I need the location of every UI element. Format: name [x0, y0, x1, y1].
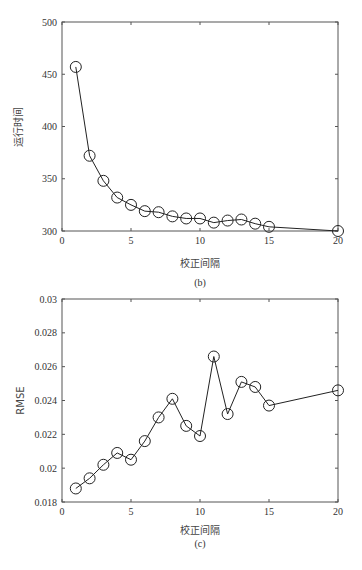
chart-runtime: 05101520300350400450500校正间隔运行时间(b) [12, 17, 344, 290]
y-tick-label: 400 [42, 121, 57, 132]
y-tick-label: 0.028 [35, 327, 58, 338]
y-tick-label: 0.024 [35, 395, 58, 406]
y-tick-label: 0.03 [40, 294, 58, 305]
chart-rmse: 051015200.0180.020.0220.0240.0260.0280.0… [15, 294, 344, 551]
x-tick-label: 5 [129, 235, 134, 246]
y-tick-label: 0.018 [35, 497, 58, 508]
plot-frame [62, 22, 338, 231]
x-tick-label: 10 [195, 235, 205, 246]
x-tick-label: 20 [333, 506, 343, 517]
x-tick-label: 15 [264, 235, 274, 246]
figure: 05101520300350400450500校正间隔运行时间(b)051015… [0, 0, 362, 570]
figure-caption: (c) [194, 538, 205, 550]
x-axis-label: 校正间隔 [180, 257, 220, 269]
y-tick-label: 450 [42, 69, 57, 80]
y-tick-label: 0.02 [40, 463, 58, 474]
x-tick-label: 0 [60, 235, 65, 246]
series-line [76, 67, 338, 231]
y-axis-label: 运行时间 [12, 107, 24, 147]
x-tick-label: 15 [264, 506, 274, 517]
x-axis-label: 校正间隔 [180, 524, 220, 536]
y-axis-label: RMSE [15, 386, 26, 414]
y-tick-label: 0.026 [35, 361, 58, 372]
series-line [76, 357, 338, 489]
x-tick-label: 10 [195, 506, 205, 517]
plot-frame [62, 299, 338, 502]
y-tick-label: 500 [42, 17, 57, 28]
x-tick-label: 5 [129, 506, 134, 517]
x-tick-label: 0 [60, 506, 65, 517]
y-tick-label: 350 [42, 173, 57, 184]
figure-caption: (b) [194, 277, 206, 289]
y-tick-label: 0.022 [35, 429, 58, 440]
y-tick-label: 300 [42, 226, 57, 237]
